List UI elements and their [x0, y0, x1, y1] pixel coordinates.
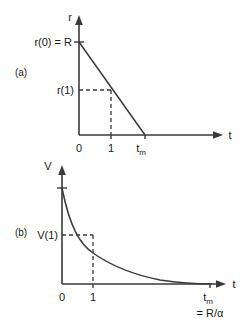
panel-b: V V(1) 0 1 tm = R/α t (b)	[15, 160, 236, 319]
panel-a-y-axis-label: r	[68, 11, 72, 23]
panel-a-y-axis-arrowhead	[75, 15, 83, 25]
panel-a: r r(0) = R r(1) 0 1 tm t (a)	[15, 11, 232, 157]
panel-b-y-axis-arrowhead	[58, 165, 66, 175]
panel-b-x-tick-origin-label: 0	[59, 291, 65, 303]
panel-b-x-axis-label: t	[232, 278, 235, 290]
panel-b-x-tick-max-sub: m	[206, 297, 213, 306]
panel-a-tag: (a)	[15, 67, 27, 78]
panel-b-data-curve	[62, 188, 212, 284]
panel-a-marked-value-label: r(1)	[57, 84, 74, 96]
panel-a-x-axis-label: t	[228, 129, 231, 141]
panel-b-marked-value-label: V(1)	[37, 229, 58, 241]
panel-b-x-axis-arrowhead	[216, 280, 226, 288]
panel-a-y-intercept-label: r(0) = R	[34, 36, 72, 48]
panel-b-y-axis-label: V	[44, 160, 52, 172]
panel-a-x-tick-origin-label: 0	[76, 142, 82, 154]
panel-a-x-tick-one-label: 1	[108, 142, 114, 154]
panel-b-tag: (b)	[15, 227, 27, 238]
panel-b-x-tick-max-note: = R/α	[197, 307, 224, 319]
panel-a-x-axis-arrowhead	[213, 131, 223, 139]
panel-b-x-tick-one-label: 1	[90, 291, 96, 303]
physics-figure-svg: r r(0) = R r(1) 0 1 tm t (a)	[0, 0, 247, 329]
figure-root: r r(0) = R r(1) 0 1 tm t (a)	[0, 0, 247, 329]
panel-a-data-line	[79, 42, 145, 135]
panel-b-x-tick-max-label: tm	[203, 291, 213, 306]
panel-a-x-tick-max-sub: m	[139, 148, 146, 157]
panel-a-x-tick-max-label: tm	[136, 142, 146, 157]
